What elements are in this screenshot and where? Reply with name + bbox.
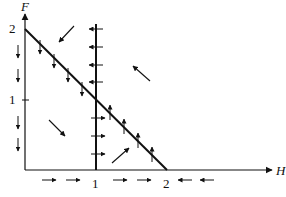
f-axis-label: F xyxy=(20,0,30,14)
arrow-up-right-icon xyxy=(112,148,129,163)
nullclines xyxy=(25,24,167,170)
f-tick-1: 1 xyxy=(9,92,16,107)
h-axis-label: H xyxy=(275,163,286,178)
axes: F H 2 1 1 2 xyxy=(9,0,286,191)
phase-diagram: F H 2 1 1 2 xyxy=(0,0,286,197)
f-tick-2: 2 xyxy=(9,21,16,36)
h-tick-1: 1 xyxy=(92,176,99,191)
arrow-down-left-icon xyxy=(59,26,74,42)
arrow-up-left-icon xyxy=(133,66,150,81)
arrow-down-right-icon xyxy=(49,120,65,136)
h-tick-2: 2 xyxy=(163,176,170,191)
